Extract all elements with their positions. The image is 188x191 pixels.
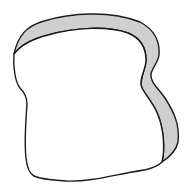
bread-slice-icon (0, 0, 188, 191)
bread-body (14, 28, 164, 181)
